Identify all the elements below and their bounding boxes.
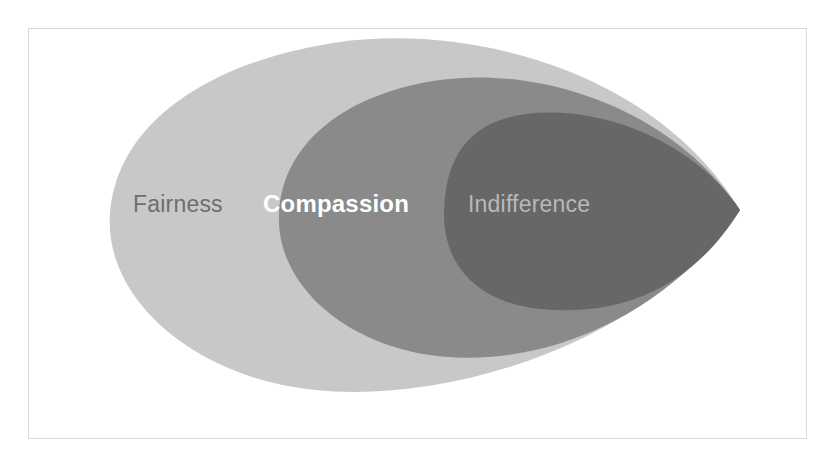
figure-root: Fairness Compassion Indifference [0, 0, 832, 465]
nested-cone-diagram [0, 0, 832, 465]
cone-label-compassion: Compassion [263, 192, 409, 216]
cone-label-fairness: Fairness [133, 193, 223, 216]
cone-label-indifference: Indifference [468, 193, 590, 216]
